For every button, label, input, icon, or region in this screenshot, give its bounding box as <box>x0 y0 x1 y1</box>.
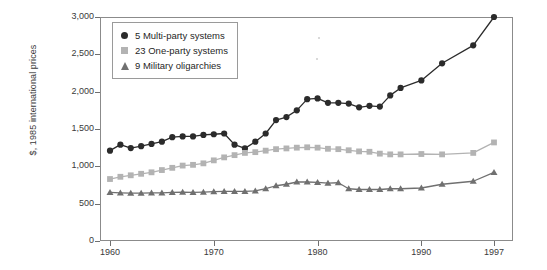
x-axis-tick <box>110 241 111 246</box>
y-axis-tick <box>95 54 100 55</box>
x-axis-tick-label: 1990 <box>401 247 441 257</box>
legend-item-one-party: 23 One-party systems <box>119 43 228 58</box>
y-axis-tick-label: 500 <box>48 198 94 208</box>
legend-item-multi-party: 5 Multi-party systems <box>119 28 228 43</box>
chart-figure: $, 1985 international prices 05001,0001,… <box>0 0 547 270</box>
y-axis-title: $, 1985 international prices <box>28 5 38 195</box>
x-axis-tick <box>214 241 215 246</box>
y-axis-tick-label: 0 <box>48 235 94 245</box>
x-axis-tick-label: 1960 <box>90 247 130 257</box>
legend-item-military: 9 Military oligarchies <box>119 58 228 73</box>
square-marker-icon <box>119 45 130 56</box>
y-axis-tick <box>95 17 100 18</box>
x-axis-tick <box>318 241 319 246</box>
y-axis-tick <box>95 92 100 93</box>
x-axis-tick-label: 1997 <box>474 247 514 257</box>
x-axis-tick <box>494 241 495 246</box>
legend: 5 Multi-party systems 23 One-party syste… <box>112 22 238 79</box>
legend-label-military: 9 Military oligarchies <box>135 60 221 71</box>
legend-label-multi-party: 5 Multi-party systems <box>135 30 225 41</box>
y-axis-tick <box>95 129 100 130</box>
y-axis-tick-label: 3,000 <box>48 11 94 21</box>
y-axis-tick <box>95 241 100 242</box>
x-axis-tick-label: 1980 <box>298 247 338 257</box>
circle-marker-icon <box>119 30 130 41</box>
triangle-marker-icon <box>119 60 130 71</box>
y-axis-tick-label: 1,000 <box>48 160 94 170</box>
scan-speck <box>316 58 318 60</box>
y-axis-tick-label: 2,000 <box>48 86 94 96</box>
scan-speck <box>318 37 320 39</box>
x-axis-tick-label: 1970 <box>194 247 234 257</box>
y-axis-tick <box>95 166 100 167</box>
y-axis-tick <box>95 204 100 205</box>
y-axis-tick-label: 1,500 <box>48 123 94 133</box>
x-axis-tick <box>421 241 422 246</box>
legend-label-one-party: 23 One-party systems <box>135 45 228 56</box>
y-axis-tick-label: 2,500 <box>48 48 94 58</box>
